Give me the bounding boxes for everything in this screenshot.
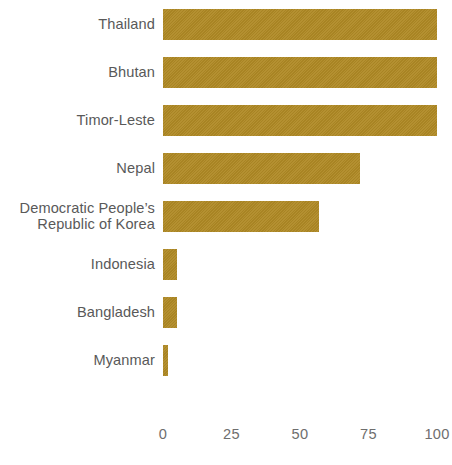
category-label: Democratic People’s Republic of Korea [0, 200, 155, 233]
bar-row: Democratic People’s Republic of Korea [0, 192, 452, 240]
bar-track [163, 297, 452, 328]
category-label: Timor-Leste [0, 112, 155, 129]
bar[interactable] [163, 57, 437, 88]
bar-track [163, 249, 452, 280]
bar[interactable] [163, 249, 177, 280]
bar-track [163, 153, 452, 184]
bar-chart: Thailand Bhutan Timor-Leste Nepal Democr [0, 0, 452, 465]
bar[interactable] [163, 153, 360, 184]
bar[interactable] [163, 9, 437, 40]
x-tick-label: 75 [360, 426, 377, 442]
x-tick-label: 25 [223, 426, 240, 442]
bar-row: Timor-Leste [0, 96, 452, 144]
bar[interactable] [163, 201, 319, 232]
bar-row: Bangladesh [0, 288, 452, 336]
bar[interactable] [163, 297, 177, 328]
plot-area: Thailand Bhutan Timor-Leste Nepal Democr [0, 0, 452, 400]
bar-track [163, 201, 452, 232]
bar-track [163, 345, 452, 376]
category-label: Myanmar [0, 352, 155, 369]
category-label: Bhutan [0, 64, 155, 81]
bar-row: Thailand [0, 0, 452, 48]
x-tick-label: 50 [292, 426, 309, 442]
bar-track [163, 57, 452, 88]
category-label: Bangladesh [0, 304, 155, 321]
bar-row: Myanmar [0, 336, 452, 384]
bar-row: Bhutan [0, 48, 452, 96]
bar[interactable] [163, 105, 437, 136]
x-tick-label: 0 [159, 426, 167, 442]
x-axis: 0 25 50 75 100 [0, 400, 452, 465]
bar-track [163, 105, 452, 136]
x-tick-label: 100 [424, 426, 449, 442]
category-label: Indonesia [0, 256, 155, 273]
bar-row: Indonesia [0, 240, 452, 288]
bar-track [163, 9, 452, 40]
category-label: Thailand [0, 16, 155, 33]
category-label: Nepal [0, 160, 155, 177]
bar[interactable] [163, 345, 168, 376]
bar-row: Nepal [0, 144, 452, 192]
